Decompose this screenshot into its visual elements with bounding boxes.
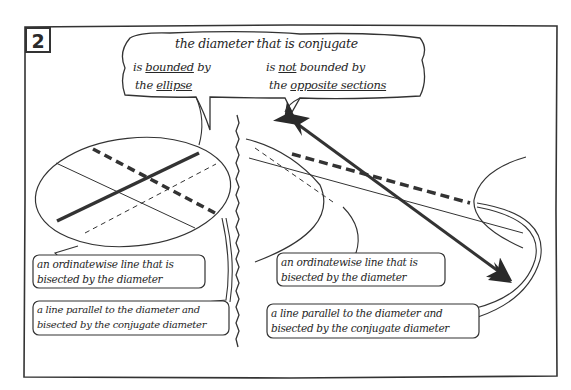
panel-number: 2 <box>28 30 48 52</box>
right-ordinate-line2: bisected by the diameter <box>281 270 406 284</box>
thin-line-right <box>249 158 523 233</box>
bubble-right-line1: is not bounded by <box>266 60 365 74</box>
conjugate-diameter <box>93 149 215 213</box>
left-parallel-tail <box>205 218 228 302</box>
panel-divider <box>236 115 239 347</box>
left-parallel-line1: a line parallel to the diameter and <box>37 303 200 317</box>
bubble-title: the diameter that is conjugate <box>175 37 358 51</box>
thin-line <box>56 163 195 228</box>
right-parallel-line1: a line parallel to the diameter and <box>271 306 442 320</box>
ellipse <box>30 128 236 256</box>
right-parallel-tail <box>477 203 541 317</box>
right-parallel-line2: bisected by the conjugate diameter <box>271 321 449 335</box>
hyperbola-left-branch <box>246 139 324 262</box>
bubble-left-line2: the ellipse <box>135 78 192 92</box>
hyperbola-right-branch <box>474 157 526 248</box>
bubble-left-line1: is bounded by <box>133 60 211 74</box>
right-ordinate-tail <box>343 207 358 255</box>
left-ordinate-line2: bisected by the diameter <box>37 272 162 286</box>
left-parallel-line2: bisected by the conjugate diameter <box>37 318 206 332</box>
right-ordinate-line1: an ordinatewise line that is <box>281 255 418 269</box>
left-ordinate-line1: an ordinatewise line that is <box>37 257 174 271</box>
bubble-right-line2: the opposite sections <box>269 78 386 92</box>
arrowhead-top <box>287 113 310 136</box>
conjugate-diameter-right <box>292 154 470 203</box>
